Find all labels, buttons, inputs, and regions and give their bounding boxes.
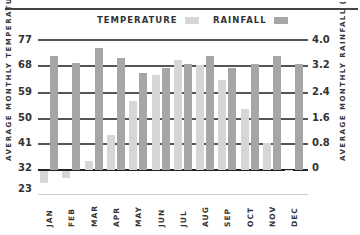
temperature-bar <box>196 65 204 170</box>
rainfall-bar <box>139 73 147 171</box>
y-tick-left: 77 <box>18 34 38 45</box>
y-tick-left: 68 <box>18 59 38 70</box>
y-tick-right: 4.0 <box>312 34 342 45</box>
month-label: APR <box>112 207 121 227</box>
temperature-bar <box>129 101 137 170</box>
y-tick-left: 50 <box>18 112 38 123</box>
month-label: OCT <box>246 207 255 227</box>
month-label: MAR <box>90 205 99 227</box>
rainfall-bar <box>228 68 236 170</box>
temperature-bar <box>62 171 70 178</box>
month-label: MAY <box>134 206 143 227</box>
temperature-bar <box>85 161 93 170</box>
y-tick-right: 0 <box>312 162 342 173</box>
month-label: JUL <box>179 210 188 227</box>
month-label: DEC <box>290 207 299 227</box>
month-label: AUG <box>201 206 210 227</box>
temperature-bar <box>152 75 160 170</box>
y-tick-left: 23 <box>18 183 38 194</box>
temperature-bar <box>263 143 271 170</box>
rainfall-bar <box>72 63 80 170</box>
rainfall-bar <box>95 48 103 170</box>
y-tick-left: 41 <box>18 137 38 148</box>
rainfall-bar <box>251 64 259 170</box>
y-tick-right: 2.4 <box>312 86 342 97</box>
y-tick-left: 59 <box>18 86 38 97</box>
plot-area: JANFEBMARAPRMAYJUNJULAUGSEPOCTNOVDEC <box>38 0 308 235</box>
gridline <box>38 39 308 41</box>
temperature-bar <box>107 135 115 170</box>
rainfall-bar <box>184 64 192 170</box>
rainfall-bar <box>50 56 58 170</box>
rainfall-bar <box>117 58 125 170</box>
temperature-bar <box>285 170 293 171</box>
y-tick-right: 1.6 <box>312 112 342 123</box>
y-axis-left-label: AVERAGE MONTHLY TEMPERATURE (°F) <box>5 39 13 161</box>
temperature-bar <box>241 109 249 170</box>
rainfall-bar <box>295 64 303 170</box>
y-tick-right: 0.8 <box>312 137 342 148</box>
month-label: JUN <box>157 209 166 227</box>
rainfall-bar <box>273 56 281 170</box>
month-label: FEB <box>67 208 76 227</box>
rainfall-bar <box>162 68 170 170</box>
temperature-bar <box>174 60 182 170</box>
month-label: JAN <box>45 209 54 227</box>
temperature-bar <box>218 80 226 170</box>
y-tick-left: 32 <box>18 162 38 173</box>
x-axis-line <box>38 194 308 195</box>
month-label: SEP <box>223 208 232 227</box>
y-tick-right: 3.2 <box>312 59 342 70</box>
rainfall-bar <box>206 56 214 170</box>
temperature-bar <box>40 171 48 183</box>
month-label: NOV <box>268 206 277 227</box>
